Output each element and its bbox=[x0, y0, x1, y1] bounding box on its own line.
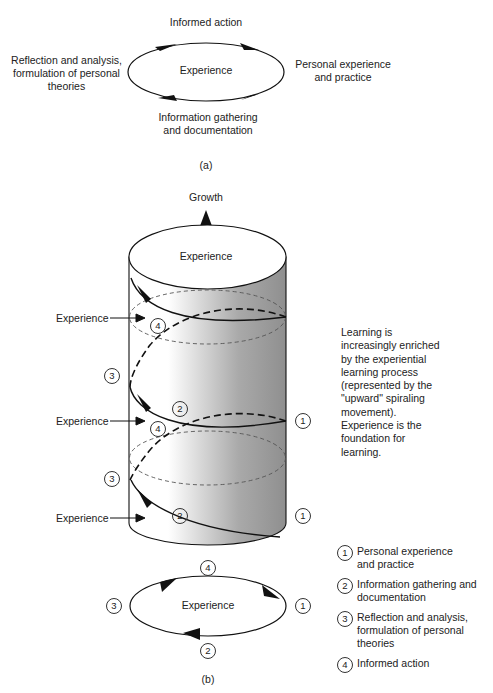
label-experience-side-2: Experience bbox=[56, 415, 109, 428]
small-cycle-marker-3: 3 bbox=[106, 598, 122, 614]
description-line: foundation for bbox=[341, 432, 451, 445]
legend: 1 Personal experience and practice 2 Inf… bbox=[337, 545, 493, 677]
label-line: Information gathering bbox=[148, 111, 268, 124]
label-growth: Growth bbox=[176, 191, 236, 204]
marker-4: 4 bbox=[150, 318, 166, 334]
marker-2: 2 bbox=[172, 401, 188, 417]
description-line: "upward" spiraling bbox=[341, 392, 451, 405]
label-line: formulation of personal bbox=[4, 67, 129, 80]
small-cycle-marker-1: 1 bbox=[295, 598, 311, 614]
label-information-gathering: Information gathering and documentation bbox=[148, 111, 268, 137]
label-experience-center-a: Experience bbox=[166, 64, 246, 77]
label-experience-side-3: Experience bbox=[56, 512, 109, 525]
marker-3: 3 bbox=[104, 368, 120, 384]
legend-item-2: 2 Information gathering and documentatio… bbox=[337, 578, 493, 604]
marker-1: 1 bbox=[295, 508, 311, 524]
small-cycle-marker-2: 2 bbox=[200, 643, 216, 659]
description-line: Learning is bbox=[341, 326, 451, 339]
label-line: and practice bbox=[288, 71, 398, 84]
description-line: Experience is the bbox=[341, 419, 451, 432]
legend-item-1: 1 Personal experience and practice bbox=[337, 545, 493, 571]
description-line: movement). bbox=[341, 406, 451, 419]
label-experience-top: Experience bbox=[166, 250, 246, 263]
marker-4: 4 bbox=[150, 421, 166, 437]
description-text: Learning is increasingly enriched by the… bbox=[341, 326, 451, 459]
description-line: learning process bbox=[341, 366, 451, 379]
legend-item-4: 4 Informed action bbox=[337, 657, 493, 670]
arrow-icon bbox=[160, 578, 177, 592]
arrow-icon bbox=[240, 43, 259, 50]
legend-text: Informed action bbox=[357, 657, 482, 670]
legend-number: 1 bbox=[337, 545, 353, 561]
label-experience-side-1: Experience bbox=[56, 312, 109, 325]
arrow-icon bbox=[183, 628, 200, 640]
label-personal-experience: Personal experience and practice bbox=[288, 58, 398, 84]
legend-text: Personal experience and practice bbox=[357, 545, 467, 571]
legend-number: 3 bbox=[337, 611, 353, 627]
marker-3: 3 bbox=[104, 471, 120, 487]
label-reflection: Reflection and analysis, formulation of … bbox=[4, 54, 129, 93]
label-line: theories bbox=[4, 80, 129, 93]
caption-a: (a) bbox=[186, 159, 226, 172]
marker-2: 2 bbox=[172, 508, 188, 524]
label-line: and documentation bbox=[148, 124, 268, 137]
caption-b: (b) bbox=[188, 673, 228, 686]
description-line: by the experiential bbox=[341, 353, 451, 366]
label-informed-action: Informed action bbox=[156, 16, 256, 29]
description-line: increasingly enriched bbox=[341, 339, 451, 352]
label-line: Personal experience bbox=[288, 58, 398, 71]
legend-number: 4 bbox=[337, 657, 353, 673]
legend-number: 2 bbox=[337, 578, 353, 594]
arrow-icon bbox=[155, 44, 177, 51]
description-line: learning. bbox=[341, 446, 451, 459]
label-experience-small-cycle: Experience bbox=[168, 599, 248, 612]
small-cycle-marker-4: 4 bbox=[200, 560, 216, 576]
cylinder bbox=[129, 225, 286, 545]
legend-text: Reflection and analysis, formulation of … bbox=[357, 611, 482, 650]
legend-item-3: 3 Reflection and analysis, formulation o… bbox=[337, 611, 493, 650]
description-line: (represented by the bbox=[341, 379, 451, 392]
label-line: Reflection and analysis, bbox=[4, 54, 129, 67]
marker-1: 1 bbox=[295, 413, 311, 429]
legend-text: Information gathering and documentation bbox=[357, 578, 489, 604]
